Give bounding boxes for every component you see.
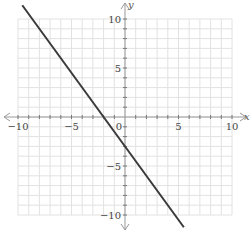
coordinate-plane: −10−50510105−5−10 x y — [0, 0, 252, 235]
x-axis-label: x — [244, 111, 250, 122]
axes — [4, 3, 246, 230]
x-tick-label: 5 — [175, 121, 181, 132]
y-tick-label: 10 — [108, 14, 121, 25]
x-tick-label: −5 — [64, 121, 79, 132]
y-tick-label: −10 — [100, 210, 121, 221]
x-tick-label: 10 — [226, 121, 239, 132]
y-axis-label: y — [127, 0, 134, 10]
x-tick-label: 0 — [116, 121, 122, 132]
y-tick-label: 5 — [115, 63, 121, 74]
y-tick-label: −5 — [106, 161, 121, 172]
x-tick-label: −10 — [7, 121, 28, 132]
